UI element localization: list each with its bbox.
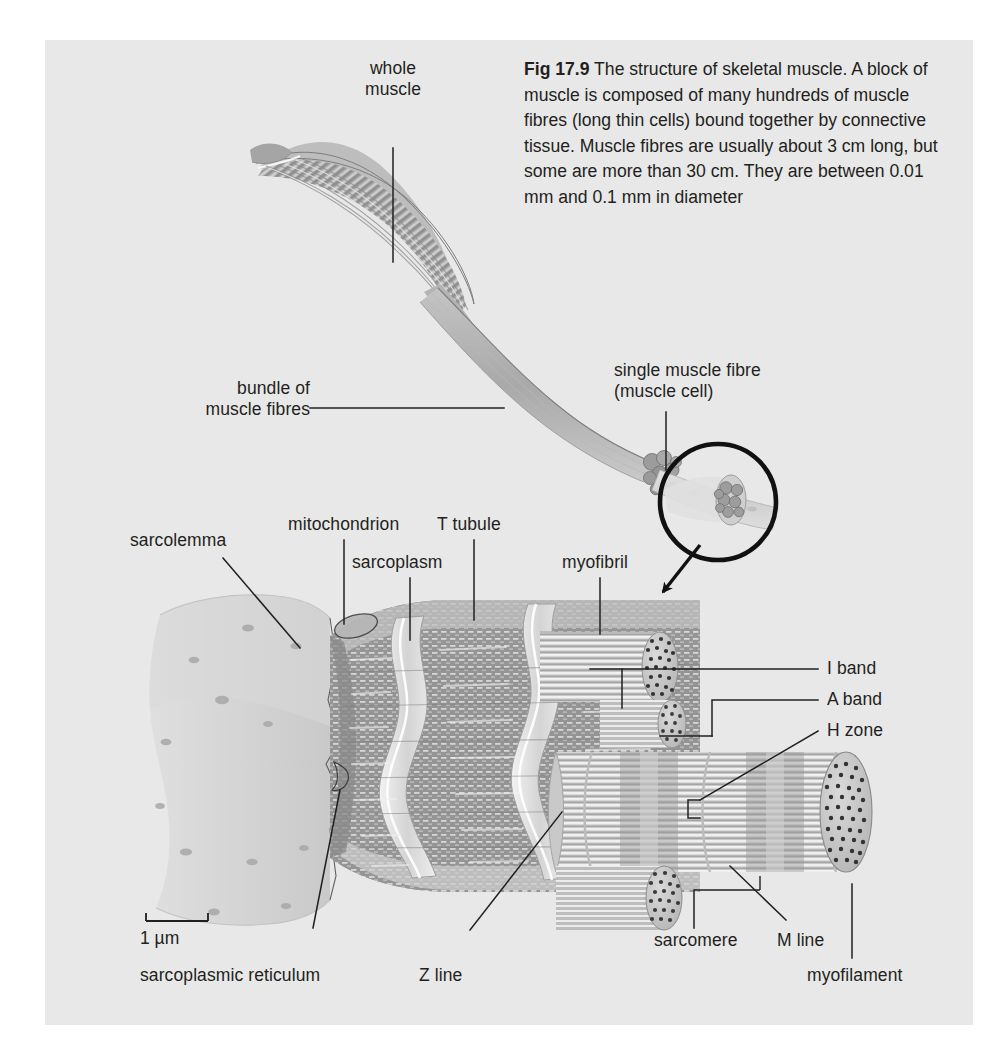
myofibril-middle-small — [600, 700, 686, 748]
label-myofibril: myofibril — [562, 552, 628, 573]
figure-caption-text: The structure of skeletal muscle. A bloc… — [524, 59, 938, 207]
label-whole-muscle: whole muscle — [330, 58, 456, 100]
label-i-band: I band — [827, 658, 876, 679]
sarcomere-bracket — [694, 876, 760, 890]
label-h-zone: H zone — [827, 720, 883, 741]
label-sarcoplasmic-reticulum: sarcoplasmic reticulum — [140, 965, 320, 986]
figure-caption: Fig 17.9 The structure of skeletal muscl… — [524, 57, 940, 211]
figure-number: Fig 17.9 — [524, 59, 590, 79]
label-myofilament: myofilament — [807, 965, 902, 986]
myofibril-main — [549, 752, 873, 872]
myofibril-upper — [540, 632, 678, 702]
label-sarcolemma: sarcolemma — [130, 530, 226, 551]
label-single-muscle-fibre: single muscle fibre (muscle cell) — [614, 360, 824, 402]
label-z-line: Z line — [419, 965, 462, 986]
label-sarcomere: sarcomere — [654, 930, 738, 951]
label-t-tubule: T tubule — [437, 514, 501, 535]
label-mitochondrion: mitochondrion — [288, 514, 399, 535]
label-m-line: M line — [777, 930, 824, 951]
single-muscle-fibre-illustration — [652, 444, 778, 592]
scale-bar-label: 1 µm — [140, 928, 179, 949]
label-a-band: A band — [827, 689, 882, 710]
label-sarcoplasm: sarcoplasm — [352, 552, 442, 573]
sarcolemma-illustration — [149, 595, 340, 925]
myofibril-lower — [556, 866, 682, 930]
label-bundle-of-muscle-fibres: bundle of muscle fibres — [140, 378, 310, 420]
